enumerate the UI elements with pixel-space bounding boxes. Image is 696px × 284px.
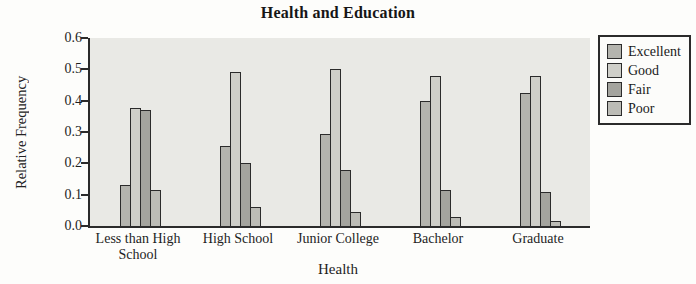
y-axis-label: Relative Frequency — [10, 38, 32, 226]
x-tick-label: Graduate — [483, 231, 593, 247]
legend-item: Fair — [607, 80, 685, 99]
legend-swatch-icon — [607, 82, 622, 97]
x-tick-label: Less than High School — [83, 231, 193, 262]
bar-poor — [250, 207, 261, 226]
legend-item: Excellent — [607, 42, 685, 61]
bar-poor — [150, 190, 161, 226]
legend-swatch-icon — [607, 63, 622, 78]
legend-label: Poor — [628, 101, 654, 117]
y-tick-mark — [81, 100, 88, 102]
legend-label: Good — [628, 63, 659, 79]
bar-poor — [550, 221, 561, 226]
y-tick-label: 0.2 — [38, 155, 82, 171]
y-tick-label: 0.6 — [38, 30, 82, 46]
bar-group — [390, 38, 490, 226]
x-tick-label: High School — [183, 231, 293, 247]
legend-swatch-icon — [607, 101, 622, 116]
bar-group — [90, 38, 190, 226]
y-tick-mark — [81, 162, 88, 164]
x-axis-label: Health — [88, 261, 588, 278]
bar-groups — [90, 38, 590, 226]
y-tick-label: 0.4 — [38, 93, 82, 109]
plot-area — [88, 38, 590, 228]
legend-item: Poor — [607, 99, 685, 118]
y-tick-label: 0.1 — [38, 187, 82, 203]
legend-label: Fair — [628, 82, 651, 98]
legend-swatch-icon — [607, 44, 622, 59]
bar-group — [190, 38, 290, 226]
y-tick-mark — [81, 225, 88, 227]
legend: ExcellentGoodFairPoor — [598, 35, 691, 125]
bar-poor — [350, 212, 361, 226]
x-tick-label: Junior College — [283, 231, 393, 247]
y-tick-label: 0.0 — [38, 218, 82, 234]
bar-poor — [450, 217, 461, 226]
chart-figure: Health and Education Relative Frequency … — [0, 0, 696, 284]
y-tick-mark — [81, 194, 88, 196]
chart-title: Health and Education — [88, 4, 588, 22]
y-tick-mark — [81, 131, 88, 133]
legend-item: Good — [607, 61, 685, 80]
y-tick-mark — [81, 37, 88, 39]
x-tick-label: Bachelor — [383, 231, 493, 247]
bar-group — [290, 38, 390, 226]
legend-label: Excellent — [628, 44, 681, 60]
y-tick-label: 0.3 — [38, 124, 82, 140]
y-tick-label: 0.5 — [38, 61, 82, 77]
bar-group — [490, 38, 590, 226]
y-tick-mark — [81, 68, 88, 70]
